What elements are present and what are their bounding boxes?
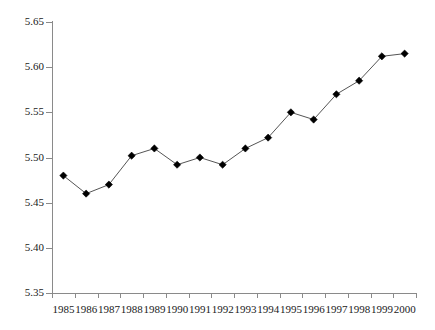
series-plot-area — [0, 0, 435, 330]
data-point-marker — [219, 161, 226, 168]
line-chart: 5.355.405.455.505.555.605.65 19851986198… — [0, 0, 435, 330]
series-line-path — [63, 54, 404, 194]
data-point-marker — [196, 154, 203, 161]
data-point-marker — [174, 161, 181, 168]
series-markers — [60, 50, 408, 197]
data-point-marker — [242, 145, 249, 152]
data-point-marker — [401, 50, 408, 57]
data-point-marker — [151, 145, 158, 152]
